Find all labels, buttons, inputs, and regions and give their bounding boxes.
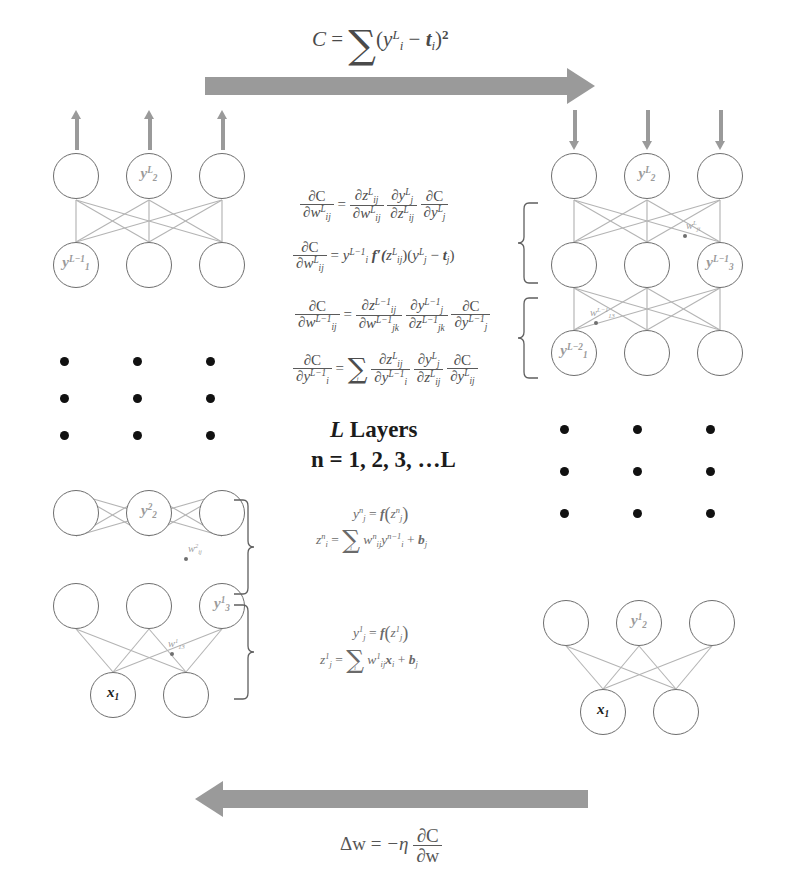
update-eq: = [371,833,382,854]
node-1-2 [126,583,172,629]
term3-frac-4: ∂C ∂yLij [447,353,477,386]
weight-label-w113: w113 [168,637,185,650]
brace-bottom-left [232,495,272,715]
node-label-R-y2L: yL2 [638,166,655,183]
node-R-L-1 [551,153,597,199]
equation-z-n: zni = ∑ i wnijyn−1i + bj [316,530,427,552]
equation-y-1: y1j = f(z1j) [353,624,408,642]
layers-title-text: Layers [350,417,418,442]
eq-3: = [343,306,351,322]
backward-arrow-shaft [223,790,588,808]
backward-arrow-head-icon [195,781,223,817]
node-BR-1-2: y12 [616,600,662,646]
eq-4: = [336,360,344,376]
weight-label-w2ij: w2ij [188,542,202,555]
cost-power: 2 [442,27,449,42]
node-1-1 [53,583,99,629]
node-2-2: y22 [126,490,172,536]
lhs-frac-4: ∂C ∂yL−1i [293,353,332,386]
cost-y-sup: L [392,27,399,42]
equation-z-1: z1j = ∑ i w1ijxi + bj [320,650,418,672]
layer-index-title: n = 1, 2, 3, …L [311,448,456,471]
node-R-Lm2-3 [697,330,743,376]
node-Lm1-3 [199,242,245,288]
node-R-L-2: yL2 [624,153,670,199]
node-label-y22: y22 [141,503,157,520]
term2-frac-4: ∂yLj ∂zLij [414,352,444,388]
node-R-L-3 [697,153,743,199]
node-R-Lm1-2 [624,242,670,288]
cost-y: y [383,27,392,51]
sum-icon-z1: ∑ i [346,650,364,672]
cost-minus: − [409,27,421,51]
node-input-x1: x1 [90,672,136,718]
node-label-BR-x1: x1 [597,702,609,719]
sum-icon-4: ∑ j [348,358,368,382]
equation-y-n: ynj = f(znj) [353,505,408,523]
eq-1: = [338,196,346,212]
node-BR-1-3 [689,600,735,646]
node-input-2 [163,672,209,718]
term1-frac-4: ∂zLij ∂yL−1i [371,352,410,388]
dC-dw-frac: ∂C ∂w [413,826,442,865]
equation-dC-dy-Lm1-sum: ∂C ∂yL−1i = ∑ j ∂zLij ∂yL−1i ∂yLj ∂zLij … [293,352,478,388]
sum-icon-zn: ∑ i [342,530,360,552]
sum-icon: ∑ [348,30,376,59]
cost-eq: = [331,27,343,51]
equation-dC-dw-L-chain: ∂C ∂wLij = ∂zLij ∂wLij ∂yLj ∂zLij ∂C ∂yL… [300,188,448,224]
node-label-y31: y13 [214,596,230,613]
node-R-Lm2-1: yL−21 [551,330,597,376]
layers-title: L Layers [330,418,418,441]
delta-w: Δw [340,833,366,854]
term2-frac-1: ∂yLj ∂zLij [387,188,417,224]
node-R-Lm1-3: yL−13 [697,242,743,288]
node-label-x1: x1 [107,685,119,702]
term3-frac-3: ∂C ∂yL−1j [451,299,490,332]
node-BR-1-1 [543,600,589,646]
node-BR-input-2 [653,689,699,735]
term3-frac-1: ∂C ∂yLj [421,189,449,222]
lhs-frac-2: ∂C ∂wLij [293,240,327,273]
cost-lhs: C [312,27,326,51]
node-label-BR-y21: y12 [631,613,647,630]
forward-arrow-shaft [205,77,567,95]
minus-eta: −η [386,833,408,854]
weight-label-wLji: wLji [686,219,700,232]
node-R-Lm2-2 [624,330,670,376]
weight-dot-R1 [683,234,687,238]
equation-dC-dw-L-expanded: ∂C ∂wLij = yL−1i f′(zLij)(yLj − tj) [293,240,454,273]
lhs-frac-3: ∂C ∂wL−1ij [295,299,340,332]
node-label-y2L: yL2 [140,166,157,183]
node-label-y1Lm1: yL−11 [62,255,89,272]
term2-frac-3: ∂yL−1j ∂zL−1jk [406,298,448,334]
node-L-3 [199,153,245,199]
node-label-R-y3Lm1: yL−13 [706,255,733,272]
node-L-2: yL2 [126,153,172,199]
lhs-frac-1: ∂C ∂wLij [300,189,334,222]
brace-top-right [500,198,540,388]
cost-function-formula: C = ∑(yLi − ti)2 [312,28,449,59]
node-L-1 [53,153,99,199]
node-R-Lm1-1 [551,242,597,288]
term1-frac-1: ∂zLij ∂wLij [350,188,384,224]
node-Lm1-1: yL−11 [53,242,99,288]
weight-dot-1 [184,557,188,561]
eq-2: = [331,247,339,263]
node-label-R-y1Lm2: yL−21 [560,343,587,360]
cost-y-sub: i [400,38,404,53]
weight-label-wLm113: wL−113 [590,306,615,319]
node-2-1 [53,490,99,536]
weight-dot-R2 [594,321,598,325]
weight-update-formula: Δw = −η ∂C ∂w [340,826,442,865]
weight-dot-2 [170,652,174,656]
node-BR-input-x1: x1 [580,689,626,735]
equation-dC-dw-Lm1-chain: ∂C ∂wL−1ij = ∂zL−1ij ∂wL−1jk ∂yL−1j ∂zL−… [295,298,490,334]
figure-canvas: C = ∑(yLi − ti)2 yL2 [0,0,792,876]
term1-frac-3: ∂zL−1ij ∂wL−1jk [356,298,402,334]
node-Lm1-2 [126,242,172,288]
forward-arrow-head-icon [567,68,595,104]
